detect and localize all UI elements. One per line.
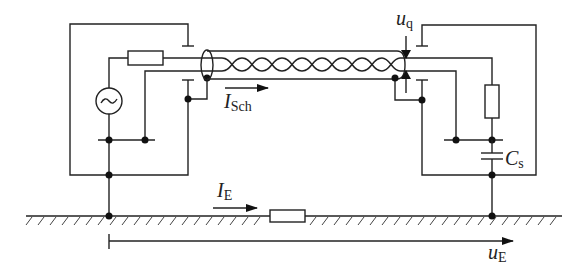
load-circuit bbox=[392, 36, 504, 216]
circuit-diagram: ISch uq Cs bbox=[0, 0, 581, 273]
left-enclosure bbox=[70, 24, 194, 175]
label-i-e: IE bbox=[216, 179, 232, 203]
label-u-e: uE bbox=[488, 241, 507, 265]
ground-resistor bbox=[270, 210, 305, 222]
ground-plane bbox=[26, 210, 562, 225]
label-u-q: uq bbox=[396, 7, 413, 31]
label-c-s: Cs bbox=[505, 147, 524, 171]
source-resistor bbox=[128, 51, 163, 65]
load-resistor bbox=[485, 85, 499, 118]
shielded-twisted-pair-cable bbox=[201, 50, 405, 80]
label-i-sch: ISch bbox=[223, 90, 252, 114]
